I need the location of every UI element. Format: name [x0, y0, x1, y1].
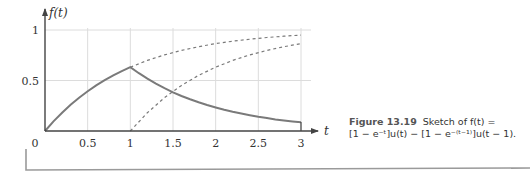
x-tick-label: 3 — [298, 137, 305, 150]
y-tick-label: 1 — [32, 24, 39, 37]
grid-lines — [45, 28, 311, 131]
x-tick-label: 0.5 — [79, 137, 97, 150]
frame-line — [26, 149, 530, 170]
figure-number: Figure 13.19 — [349, 116, 417, 127]
x-axis-label: t — [324, 124, 329, 138]
x-tick-label: 2 — [212, 137, 219, 150]
figure-caption: Figure 13.19Sketch of f(t) = [1 − e⁻ᵗ]u(… — [349, 116, 529, 140]
x-tick-label: 0 — [32, 137, 39, 150]
caption-text-1: Sketch of f(t) = — [423, 116, 496, 127]
caption-line-2: [1 − e⁻ᵗ]u(t) − [1 − e⁻⁽ᵗ⁻¹⁾]u(t − 1). — [349, 128, 529, 140]
figure-chart: 00.511.522.530.51 f(t) t — [0, 0, 531, 173]
y-axis-label: f(t) — [48, 6, 68, 20]
x-tick-label: 2.5 — [250, 137, 268, 150]
x-tick-label: 1.5 — [164, 137, 182, 150]
caption-line-1: Figure 13.19Sketch of f(t) = — [349, 116, 529, 128]
y-tick-label: 0.5 — [22, 75, 40, 88]
x-tick-label: 1 — [127, 137, 134, 150]
axes — [45, 9, 318, 131]
figure-frame — [26, 149, 530, 170]
